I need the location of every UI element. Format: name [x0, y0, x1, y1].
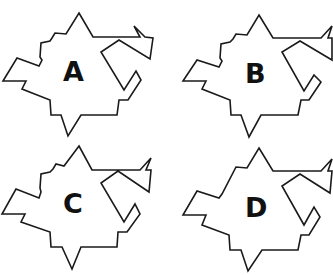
option-b-panel[interactable]: B — [166, 0, 332, 137]
option-label-d: D — [245, 194, 267, 221]
option-c-panel[interactable]: C — [0, 137, 166, 274]
option-label-c: C — [63, 190, 83, 217]
option-label-a: A — [63, 58, 84, 85]
option-label-b: B — [245, 60, 266, 87]
option-d-panel[interactable]: D — [166, 137, 332, 274]
option-a-panel[interactable]: A — [0, 0, 166, 137]
jagged-polygon-c — [0, 137, 166, 274]
